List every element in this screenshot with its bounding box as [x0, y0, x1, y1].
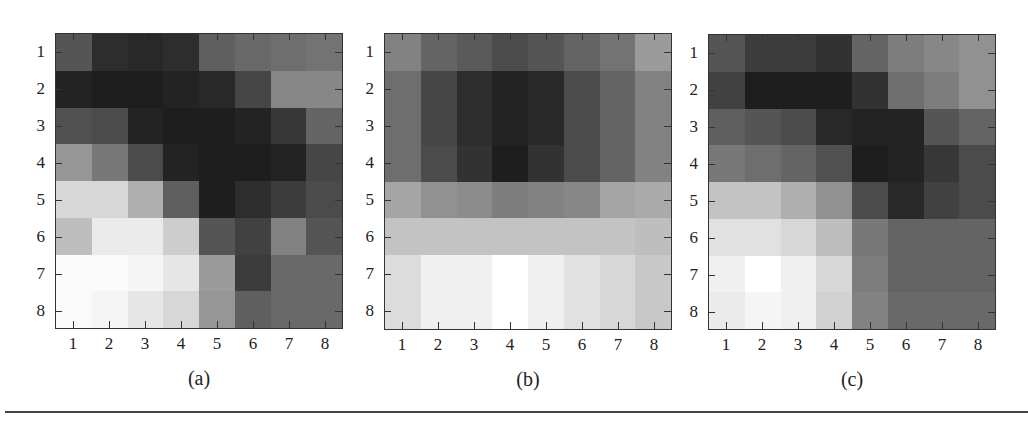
y-tick-mark	[335, 126, 342, 127]
heatmap-cell	[457, 71, 493, 108]
heatmap-cell	[492, 108, 528, 145]
x-tick-label: 6	[898, 336, 914, 353]
y-tick-mark	[988, 275, 995, 276]
x-tick-mark	[402, 33, 403, 40]
heatmap-cell	[128, 144, 164, 181]
y-tick-mark	[55, 52, 62, 53]
y-tick-mark	[335, 311, 342, 312]
x-tick-label: 7	[281, 335, 297, 352]
heatmap-cell	[92, 108, 128, 145]
heatmap-cell	[781, 72, 817, 109]
heatmap-cell	[781, 109, 817, 146]
x-tick-label: 3	[466, 336, 482, 353]
x-tick-label: 8	[646, 336, 662, 353]
heatmap-cell	[745, 72, 781, 109]
heatmap-cell	[92, 218, 128, 255]
heatmap-cell	[816, 145, 852, 182]
x-tick-label: 4	[173, 335, 189, 352]
heatmap-cell	[92, 181, 128, 218]
y-tick-mark	[384, 126, 391, 127]
y-tick-label: 4	[29, 154, 45, 171]
y-tick-mark	[384, 237, 391, 238]
y-tick-mark	[384, 311, 391, 312]
heatmap-cell	[528, 108, 564, 145]
x-tick-label: 2	[101, 335, 117, 352]
heatmap-cell	[924, 182, 960, 219]
y-tick-label: 6	[29, 228, 45, 245]
x-tick-label: 5	[209, 335, 225, 352]
x-tick-mark	[181, 321, 182, 328]
heatmap-cell	[888, 72, 924, 109]
x-tick-mark	[402, 322, 403, 329]
y-tick-mark	[708, 238, 715, 239]
x-tick-mark	[510, 322, 511, 329]
y-tick-mark	[335, 200, 342, 201]
heatmap-cell	[852, 145, 888, 182]
heatmap-cell	[888, 256, 924, 293]
heatmap-cell	[564, 255, 600, 292]
x-tick-label: 6	[245, 335, 261, 352]
panel-caption: (c)	[822, 369, 882, 389]
x-tick-label: 8	[970, 336, 986, 353]
y-tick-mark	[664, 89, 671, 90]
x-tick-mark	[145, 321, 146, 328]
y-tick-mark	[664, 237, 671, 238]
heatmap-cell	[92, 71, 128, 108]
heatmap-cell	[92, 255, 128, 292]
heatmap-plot	[708, 34, 996, 330]
x-tick-label: 4	[502, 336, 518, 353]
heatmap-cell	[924, 219, 960, 256]
y-tick-mark	[384, 274, 391, 275]
heatmap-cell	[271, 218, 307, 255]
heatmap-cell	[924, 72, 960, 109]
y-tick-mark	[335, 52, 342, 53]
heatmap-cell	[564, 145, 600, 182]
heatmap-cell	[852, 219, 888, 256]
heatmap-cell	[271, 255, 307, 292]
heatmap-cell	[852, 256, 888, 293]
x-tick-label: 1	[394, 336, 410, 353]
heatmap-cell	[199, 144, 235, 181]
x-tick-mark	[109, 33, 110, 40]
y-tick-label: 6	[682, 229, 698, 246]
x-tick-mark	[942, 322, 943, 329]
y-tick-mark	[708, 275, 715, 276]
y-tick-mark	[708, 201, 715, 202]
x-tick-mark	[870, 322, 871, 329]
x-tick-mark	[654, 33, 655, 40]
heatmap-cell	[235, 255, 271, 292]
heatmap-cell	[199, 181, 235, 218]
y-tick-mark	[988, 53, 995, 54]
y-tick-mark	[664, 126, 671, 127]
heatmap-cell	[745, 256, 781, 293]
heatmap-cell	[199, 255, 235, 292]
y-tick-mark	[384, 89, 391, 90]
heatmap-cell	[457, 218, 493, 255]
heatmap-cell	[492, 218, 528, 255]
y-tick-label: 7	[358, 265, 374, 282]
heatmap-cell	[564, 218, 600, 255]
heatmap-cell	[745, 219, 781, 256]
heatmap-cell	[816, 72, 852, 109]
x-tick-mark	[870, 34, 871, 41]
y-tick-label: 8	[682, 303, 698, 320]
heatmap-cell	[528, 218, 564, 255]
heatmap-cell	[271, 144, 307, 181]
heatmap-cell	[745, 182, 781, 219]
heatmap-cell	[271, 181, 307, 218]
heatmap-cell	[528, 255, 564, 292]
heatmap-cell	[457, 145, 493, 182]
x-tick-mark	[834, 34, 835, 41]
y-tick-mark	[988, 90, 995, 91]
x-tick-mark	[325, 33, 326, 40]
x-tick-mark	[546, 322, 547, 329]
x-tick-mark	[798, 322, 799, 329]
heatmap-cell	[457, 255, 493, 292]
x-tick-mark	[289, 321, 290, 328]
heatmap-cell	[528, 145, 564, 182]
y-tick-label: 8	[29, 302, 45, 319]
x-tick-mark	[978, 34, 979, 41]
heatmap-cell	[888, 182, 924, 219]
x-tick-mark	[762, 322, 763, 329]
heatmap-cell	[128, 71, 164, 108]
